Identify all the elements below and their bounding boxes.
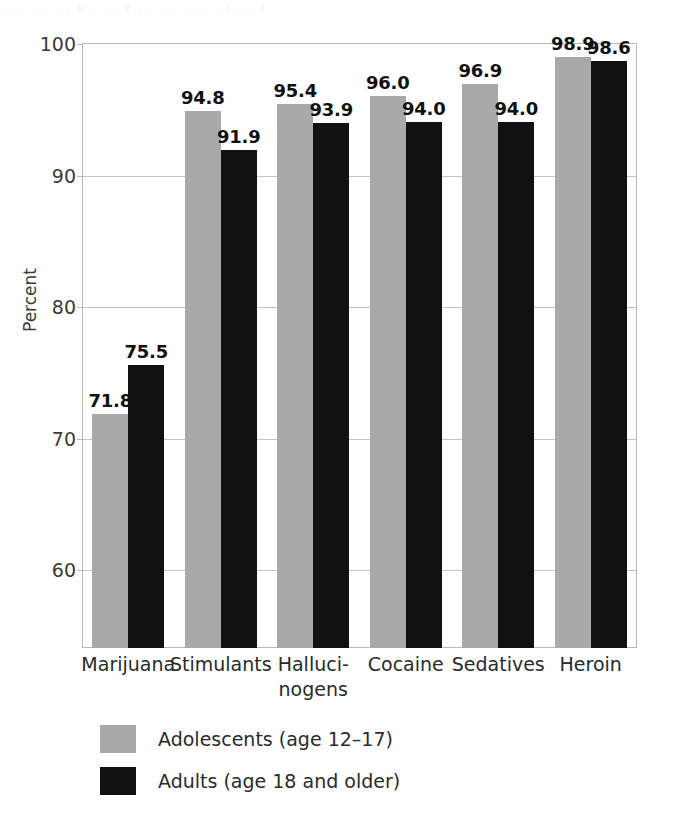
bar-group: 95.493.9 [267, 43, 360, 648]
bar-value-label: 75.5 [118, 341, 174, 362]
legend-swatch [100, 725, 136, 753]
bar [555, 57, 591, 648]
legend-label: Adults (age 18 and older) [158, 770, 400, 792]
bar [277, 104, 313, 649]
bar [591, 61, 627, 648]
bar [498, 122, 534, 648]
bar [313, 123, 349, 648]
bar-value-label: 94.0 [396, 98, 452, 119]
bars-layer: 71.875.594.891.995.493.996.094.096.994.0… [82, 43, 637, 648]
bar [128, 365, 164, 648]
bar-group: 94.891.9 [175, 43, 268, 648]
bar-value-label: 94.8 [175, 87, 231, 108]
bar-value-label: 91.9 [211, 126, 267, 147]
y-axis-tick-label: 60 [52, 559, 76, 581]
cutoff-caption-text: . . . . . . . p . . . y . . . . . . . . … [0, 0, 674, 14]
bar-value-label: 94.0 [488, 98, 544, 119]
x-axis-labels: MarijuanaStimulantsHalluci- nogensCocain… [82, 652, 637, 712]
bar [185, 111, 221, 648]
legend-swatch [100, 767, 136, 795]
bar-value-label: 95.4 [267, 80, 323, 101]
bar-value-label: 96.0 [360, 72, 416, 93]
bar-group: 98.998.6 [545, 43, 638, 648]
bar-value-label: 98.6 [581, 37, 637, 58]
y-axis-tick-label: 80 [52, 296, 76, 318]
y-axis-tick-label: 90 [52, 165, 76, 187]
y-axis-tick-label: 70 [52, 428, 76, 450]
bar-group: 71.875.5 [82, 43, 175, 648]
bar [406, 122, 442, 648]
bar-value-label: 93.9 [303, 99, 359, 120]
x-axis-label: Heroin [535, 652, 648, 677]
bar-group: 96.994.0 [452, 43, 545, 648]
bar-value-label: 96.9 [452, 60, 508, 81]
legend-label: Adolescents (age 12–17) [158, 728, 393, 750]
chart-legend: Adolescents (age 12–17)Adults (age 18 an… [100, 718, 560, 802]
y-axis-title: Percent [20, 268, 40, 332]
legend-item: Adolescents (age 12–17) [100, 718, 560, 760]
bar [221, 150, 257, 648]
legend-item: Adults (age 18 and older) [100, 760, 560, 802]
bar-group: 96.094.0 [360, 43, 453, 648]
bar [462, 84, 498, 648]
bar [92, 414, 128, 648]
y-axis-tick-label: 100 [40, 33, 76, 55]
bar [370, 96, 406, 648]
chart-figure: . . . . . . . p . . . y . . . . . . . . … [0, 0, 674, 838]
